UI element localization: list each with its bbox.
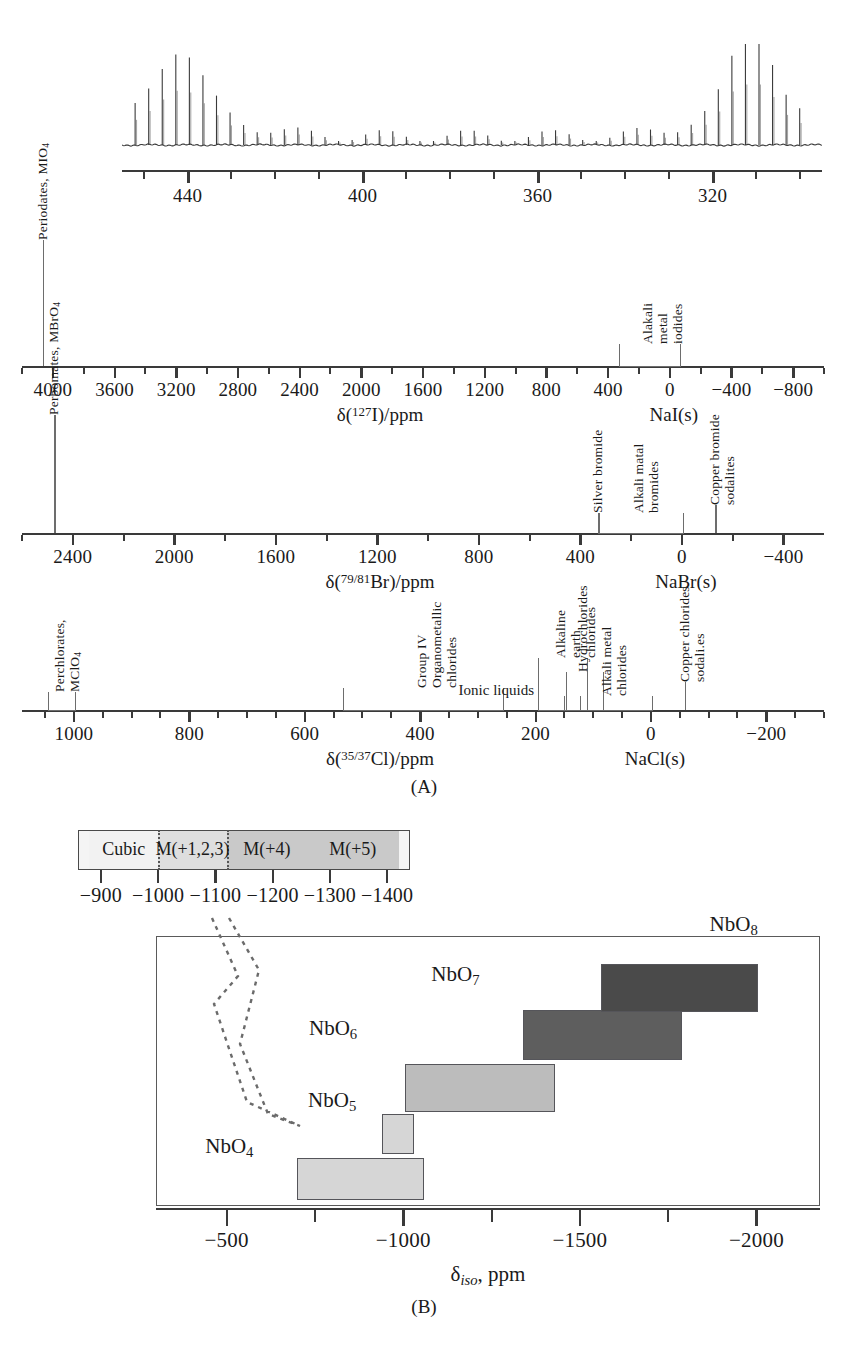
- cubic-axis-tick: [272, 870, 274, 883]
- cubic-axis-tick-label: −1400: [361, 884, 413, 907]
- chlorine-35-37-shift-scale-tick: [679, 712, 681, 718]
- chlorine-35-37-shift-scale-tick: [823, 712, 825, 718]
- iodine-127-shift-scale-tick-label: −400: [711, 379, 751, 401]
- iodine-127-shift-scale-tick: [638, 368, 640, 374]
- chlorine-35-37-shift-scale-tick: [736, 712, 738, 718]
- iodine-127-shift-scale-marker-label: Periodates, MIO4: [35, 132, 51, 240]
- iodine-127-shift-scale-tick: [669, 368, 671, 378]
- nb-axis-tick: [226, 1210, 228, 1226]
- bromine-79-81-shift-scale-marker-label: Perbomates, MBrO4: [46, 299, 62, 415]
- nb-bar-label: NbO8: [710, 912, 758, 939]
- spectrum-axis-tick: [187, 172, 190, 183]
- iodine-127-shift-scale-tick-label: 2000: [342, 379, 381, 401]
- chlorine-35-37-shift-scale-axis-label: δ(35/37Cl)/ppm: [326, 748, 434, 770]
- chlorine-35-37-shift-scale-tick: [765, 712, 767, 722]
- bromine-79-81-shift-scale-tick: [72, 535, 74, 545]
- bromine-79-81-shift-scale-tick-label: 2400: [53, 546, 92, 568]
- nb-bar: [382, 1114, 414, 1154]
- nb-bar: [523, 1010, 682, 1060]
- iodine-127-shift-scale-marker-line: [43, 240, 45, 366]
- chlorine-35-37-shift-scale-range-label: Alkali metal chlorides: [599, 626, 629, 696]
- chlorine-35-37-shift-scale-tick-label: 0: [646, 723, 656, 745]
- chlorine-35-37-shift-scale-tick: [217, 712, 219, 718]
- chlorine-35-37-shift-scale-tick: [102, 712, 104, 718]
- chlorine-35-37-shift-scale-tick: [131, 712, 133, 718]
- bromine-79-81-shift-scale-tick: [782, 535, 784, 545]
- iodine-127-shift-scale-tick: [576, 368, 578, 374]
- iodine-127-shift-scale-tick-label: 400: [594, 379, 623, 401]
- iodine-127-shift-scale-tick: [206, 368, 208, 374]
- chlorine-35-37-shift-scale-tick: [477, 712, 479, 718]
- iodine-127-shift-scale-tick: [730, 368, 732, 378]
- chlorine-35-37-shift-scale-tick-label: 1000: [55, 723, 94, 745]
- spectrum-axis-tick: [405, 172, 407, 179]
- bromine-79-81-shift-scale-tick: [630, 535, 632, 541]
- chlorine-35-37-shift-scale-range-label: Ionic liquids: [459, 682, 534, 699]
- nb-bar: [601, 964, 758, 1012]
- chlorine-35-37-shift-scale-tick: [188, 712, 190, 722]
- nb-axis-tick: [402, 1210, 404, 1226]
- spectrum-axis-tick: [755, 172, 757, 179]
- bromine-79-81-shift-scale-tick-label: −400: [763, 546, 803, 568]
- iodine-127-shift-scale-tick-label: −800: [773, 379, 813, 401]
- chlorine-35-37-shift-scale-tick-label: 800: [175, 723, 204, 745]
- cubic-axis-tick: [386, 870, 388, 883]
- iodine-127-shift-scale-tick-label: 1600: [404, 379, 443, 401]
- spectrum-axis-tick: [493, 172, 495, 179]
- chlorine-35-37-shift-scale-tick: [246, 712, 248, 718]
- cubic-segment-label: M(+1,2,3): [155, 839, 229, 860]
- iodine-127-shift-scale-tick: [545, 368, 547, 378]
- iodine-127-shift-scale-tick: [114, 368, 116, 378]
- chlorine-35-37-shift-scale-tick: [708, 712, 710, 718]
- spectrum-axis-tick: [449, 172, 451, 179]
- chlorine-35-37-shift-scale-tick-label: 200: [521, 723, 550, 745]
- chlorine-35-37-shift-scale-tick: [419, 712, 421, 722]
- bromine-79-81-shift-scale-tick-label: 1200: [358, 546, 397, 568]
- bromine-79-81-shift-scale-tick: [732, 535, 734, 541]
- chlorine-35-37-shift-scale-tick: [390, 712, 392, 718]
- nb-axis-tick: [491, 1210, 493, 1222]
- iodine-127-shift-scale-tick: [144, 368, 146, 374]
- spectrum-axis-tick: [624, 172, 626, 179]
- bromine-79-81-shift-scale-tick: [326, 535, 328, 541]
- bromine-79-81-shift-scale-range-bracket: [598, 513, 684, 534]
- iodine-127-shift-scale-tick: [422, 368, 424, 378]
- iodine-127-shift-scale-tick: [761, 368, 763, 374]
- cubic-axis-tick-label: −1300: [304, 884, 356, 907]
- chlorine-35-37-shift-scale-tick: [506, 712, 508, 718]
- spectrum-axis-tick-label: 400: [348, 185, 377, 207]
- bromine-79-81-shift-scale-tick: [579, 535, 581, 545]
- cubic-axis-tick: [157, 870, 159, 883]
- chlorine-35-37-shift-scale-tick: [794, 712, 796, 718]
- bromine-79-81-shift-scale-tick-label: 0: [677, 546, 687, 568]
- iodine-127-shift-scale-tick-label: 3200: [157, 379, 196, 401]
- iodine-127-shift-scale-tick: [360, 368, 362, 378]
- spectrum-axis-tick: [799, 172, 801, 179]
- nb-axis-tick: [314, 1210, 316, 1222]
- chlorine-35-37-shift-scale-tick: [621, 712, 623, 718]
- cubic-axis-tick: [329, 870, 331, 883]
- cubic-axis-tick-label: −1200: [246, 884, 298, 907]
- bromine-79-81-shift-scale-tick: [478, 535, 480, 545]
- chlorine-35-37-shift-scale-marker-line: [685, 682, 687, 710]
- bromine-79-81-shift-scale-tick: [123, 535, 125, 541]
- bromine-79-81-shift-scale-marker-label: Silver bromide: [590, 427, 605, 513]
- chlorine-35-37-shift-scale-tick: [73, 712, 75, 722]
- iodine-127-shift-scale-tick: [607, 368, 609, 378]
- nb-axis-tick-label: −500: [205, 1228, 249, 1253]
- bromine-79-81-shift-scale-tick: [275, 535, 277, 545]
- cubic-axis-tick-label: −1100: [190, 884, 242, 907]
- iodine-127-shift-scale-tick: [83, 368, 85, 374]
- cubic-segment-label: M(+4): [243, 839, 290, 860]
- nb-axis-tick-label: −2000: [729, 1228, 784, 1253]
- chlorine-35-37-shift-scale-tick-label: −200: [746, 723, 786, 745]
- chlorine-35-37-shift-scale-range-label: Hydrochlorides: [575, 598, 590, 672]
- panel-a-label: (A): [411, 776, 437, 798]
- spectrum-axis-tick: [668, 172, 670, 179]
- bromine-79-81-shift-scale-tick-label: 2000: [155, 546, 194, 568]
- chlorine-35-37-shift-scale-tick: [563, 712, 565, 718]
- chlorine-35-37-shift-scale-tick: [592, 712, 594, 718]
- iodine-127-shift-scale-tick-label: 2800: [219, 379, 258, 401]
- iodine-127-shift-scale-tick: [21, 368, 23, 374]
- iodine-127-shift-scale-tick-label: 800: [532, 379, 561, 401]
